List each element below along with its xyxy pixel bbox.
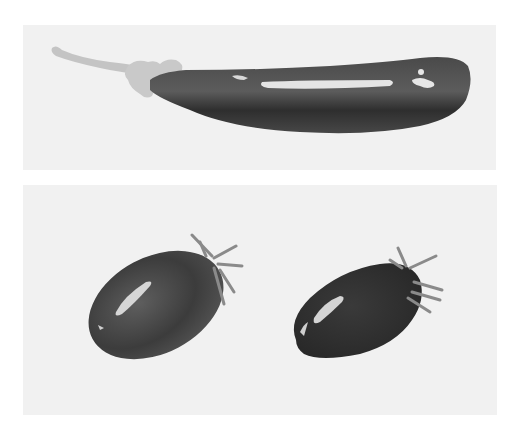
illustration (0, 0, 516, 431)
tomato-right (294, 248, 442, 358)
tomato-left-body (70, 229, 242, 381)
eggplant-body (150, 57, 471, 133)
eggplant (52, 46, 471, 133)
eggplant-stem (52, 46, 139, 74)
tomato-right-body (294, 263, 422, 358)
tomato-left (70, 229, 242, 381)
